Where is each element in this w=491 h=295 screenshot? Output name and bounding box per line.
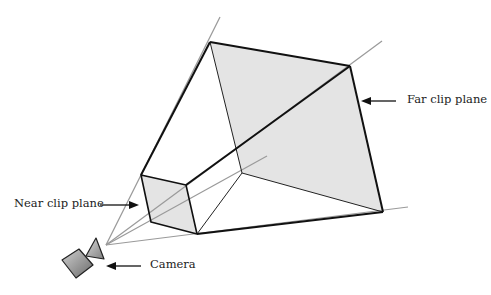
camera-arrowhead-icon [106,262,116,270]
far-clip-plane-face [210,42,383,212]
frustum-graphic [0,0,491,295]
camera-lens-icon [86,238,104,259]
near-clip-plane-label: Near clip plane [14,198,104,210]
far-plane-arrowhead-icon [361,97,371,105]
camera-label: Camera [150,259,196,271]
near-plane-arrowhead-icon [129,201,139,209]
far-clip-plane-label: Far clip plane [407,94,487,106]
view-frustum-diagram: Far clip plane Near clip plane Camera [0,0,491,295]
camera-icon [62,238,104,278]
